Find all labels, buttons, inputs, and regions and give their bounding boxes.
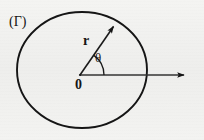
angle-theta-label: θ <box>95 51 101 64</box>
radius-label: r <box>83 34 89 48</box>
figure-canvas: (Γ) r θ 0 <box>0 0 204 140</box>
polar-diagram-svg <box>0 0 204 140</box>
curve-name-label: (Γ) <box>9 15 26 29</box>
closed-curve-gamma <box>17 12 147 128</box>
origin-label: 0 <box>75 78 82 92</box>
origin-point <box>79 74 81 76</box>
